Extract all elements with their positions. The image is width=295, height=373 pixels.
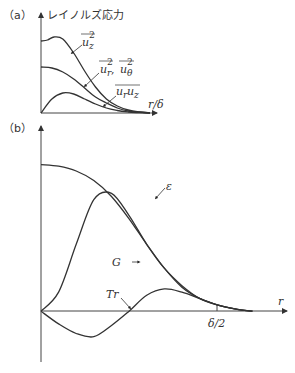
leader-uz2 [72, 45, 82, 53]
series-line-u-z-0 [41, 37, 150, 113]
label-ur2-ut2: u r 2 , u θ 2 [99, 57, 134, 78]
label-uruz: u r u z [115, 85, 140, 100]
svg-text:,: , [111, 63, 115, 76]
svg-text:2: 2 [127, 57, 133, 67]
svg-text:z: z [133, 90, 139, 100]
panel-a-label: （a） [3, 9, 32, 22]
label-epsilon: ε [166, 180, 172, 193]
svg-text:2: 2 [89, 30, 95, 40]
tick-label-delta-half: δ/2 [208, 317, 225, 330]
svg-text:z: z [88, 41, 94, 51]
series-line-g-1 [41, 192, 252, 311]
panel-a: （a） レイノルズ応力 r/δ u z 2 u r 2 , u θ 2 u [3, 8, 164, 113]
label-g: G [112, 256, 121, 269]
panel-b: （b） r δ/2 ε G Tr [3, 122, 287, 362]
leader-tr [121, 298, 130, 308]
panel-b-label: （b） [3, 122, 32, 135]
figure: （a） レイノルズ応力 r/δ u z 2 u r 2 , u θ 2 u [0, 0, 295, 373]
panel-a-xlabel: r/δ [148, 98, 164, 111]
label-tr: Tr [106, 288, 119, 301]
leader-epsilon [156, 188, 165, 198]
svg-text:θ: θ [127, 68, 133, 78]
series-line--0 [41, 165, 252, 312]
panel-b-xlabel: r [278, 295, 284, 308]
label-uz2: u z 2 [81, 30, 95, 51]
panel-a-ylabel: レイノルズ応力 [47, 8, 124, 22]
